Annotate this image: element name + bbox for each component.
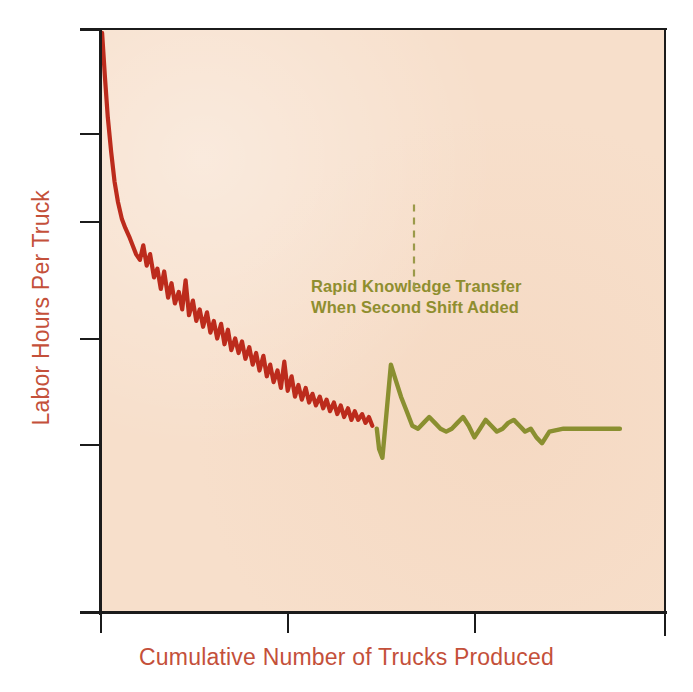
x-axis-tick-1 (287, 611, 289, 633)
x-axis-tick-3 (664, 611, 666, 633)
y-axis-tick-2 (80, 221, 101, 223)
y-axis-tick-3 (80, 338, 101, 340)
series-layer (101, 30, 665, 612)
annotation-line-1: Rapid Knowledge Transfer (311, 276, 522, 297)
series-line-first-shift (102, 33, 372, 426)
y-axis-tick-0 (80, 29, 101, 31)
plot-top-rule (80, 28, 667, 30)
x-axis-tick-2 (474, 611, 476, 633)
plot-right-rule (664, 28, 666, 636)
x-axis-title: Cumulative Number of Trucks Produced (0, 644, 693, 671)
y-axis-tick-4 (80, 444, 101, 446)
series-line-second-shift (377, 365, 620, 458)
x-axis-spine (80, 611, 667, 614)
x-axis-tick-0 (100, 611, 102, 633)
y-axis-spine (99, 28, 102, 615)
y-axis-tick-1 (80, 133, 101, 135)
plot-area: Rapid Knowledge Transfer When Second Shi… (101, 30, 665, 612)
annotation-rapid-knowledge-transfer: Rapid Knowledge Transfer When Second Shi… (311, 276, 522, 318)
annotation-line-2: When Second Shift Added (311, 297, 522, 318)
chart-figure: Rapid Knowledge Transfer When Second Shi… (0, 0, 693, 692)
y-axis-tick-5 (80, 611, 101, 613)
y-axis-title: Labor Hours Per Truck (28, 196, 55, 426)
